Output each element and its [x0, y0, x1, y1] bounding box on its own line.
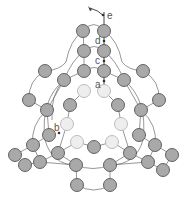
label-c: c — [95, 55, 100, 66]
label-e: e — [107, 10, 113, 21]
nodes — [9, 25, 179, 192]
molecular-ring-diagram: e d c a b — [0, 0, 185, 205]
label-a: a — [95, 79, 101, 90]
label-d: d — [95, 35, 101, 46]
label-b: b — [54, 122, 60, 133]
